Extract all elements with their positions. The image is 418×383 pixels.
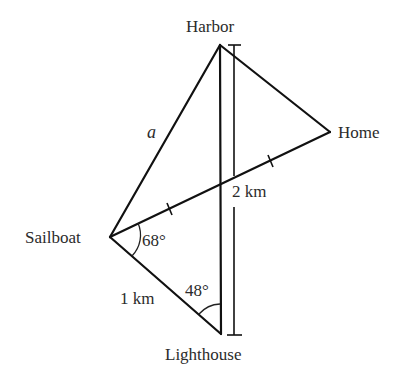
segment-harbor-lighthouse [220,45,221,334]
segment-harbor-home [220,45,330,132]
segment-sailboat-harbor [110,45,220,237]
angle-arc-sailboat [132,223,141,256]
label-harbor: Harbor [186,17,234,36]
label-sailboat: Sailboat [25,228,81,247]
label-angle-sailboat: 68° [142,231,166,250]
label-side-a: a [147,122,156,142]
label-home: Home [338,123,380,142]
geometry-diagram: Harbor Home Sailboat Lighthouse a 1 km 2… [0,0,418,383]
label-side-2km: 2 km [232,182,266,201]
label-side-1km: 1 km [120,289,154,308]
angle-arc-lighthouse [199,304,220,314]
label-lighthouse: Lighthouse [165,345,242,364]
label-angle-lighthouse: 48° [185,281,209,300]
